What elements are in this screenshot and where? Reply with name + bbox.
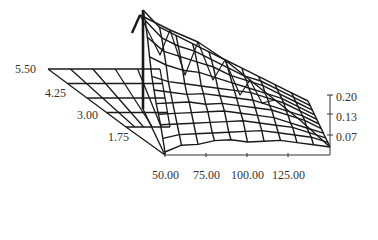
depth-tick-label: 4.25 bbox=[45, 87, 66, 99]
z-tick-label: 0.13 bbox=[336, 111, 357, 123]
x-tick-label: 75.00 bbox=[193, 169, 220, 181]
depth-tick-label: 1.75 bbox=[108, 131, 129, 143]
z-tick-label: 0.07 bbox=[336, 131, 357, 143]
x-tick-label: 100.00 bbox=[231, 169, 264, 181]
x-tick-label: 50.00 bbox=[152, 169, 179, 181]
z-tick-label: 0.20 bbox=[336, 91, 357, 103]
x-tick-label: 125.00 bbox=[272, 169, 305, 181]
depth-tick-label: 5.50 bbox=[15, 63, 36, 75]
depth-tick-label: 3.00 bbox=[77, 109, 98, 121]
